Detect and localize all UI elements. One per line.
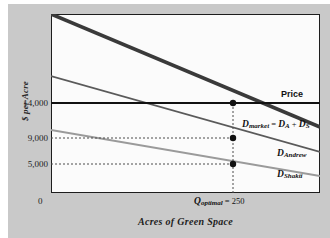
series-line-market <box>51 14 320 127</box>
price-line-label: Price <box>281 89 303 99</box>
series-label-market-sub: market <box>249 122 269 130</box>
series-label-shakti-d: D <box>277 169 284 179</box>
x-tick-origin: 0 <box>38 196 43 206</box>
series-label-market-da: D <box>278 119 285 129</box>
marker-shakti-equilibrium <box>230 161 236 167</box>
y-tick-9000: 9,000 <box>5 133 51 143</box>
q-optimal-label: Qoptimal = 250 <box>194 196 244 207</box>
marker-andrew-equilibrium <box>230 135 236 141</box>
chart-figure: $ per Acre 14,000 9,000 5,000 0 Price Dm… <box>0 0 330 238</box>
y-tick-5000: 5,000 <box>5 159 51 169</box>
series-line-andrew <box>51 76 320 152</box>
series-label-shakti-sub: Shakti <box>284 172 303 180</box>
series-label-market-ds: D <box>299 119 306 129</box>
q-optimal-sub: optimal <box>201 199 223 207</box>
series-label-market-plus: + <box>290 119 299 129</box>
series-label-shakti: DShakti <box>277 169 303 180</box>
q-optimal-value: = 250 <box>223 196 245 206</box>
series-label-market-eq: = <box>269 119 278 129</box>
series-label-market-d: D <box>242 119 249 129</box>
x-axis-title: Acres of Green Space <box>51 216 320 227</box>
marker-market-equilibrium <box>230 100 236 106</box>
chart-plot-svg <box>51 14 320 193</box>
series-label-andrew-d: D <box>277 148 284 158</box>
y-tick-14000: 14,000 <box>5 98 51 108</box>
series-label-market-ds-sub: S <box>306 122 310 130</box>
series-label-andrew: DAndrew <box>277 148 306 159</box>
series-label-andrew-sub: Andrew <box>284 151 307 159</box>
y-axis-tick-labels: 14,000 9,000 5,000 <box>0 0 51 238</box>
series-label-market: Dmarket = DA + DS <box>242 119 310 130</box>
q-optimal-q: Q <box>194 196 201 206</box>
